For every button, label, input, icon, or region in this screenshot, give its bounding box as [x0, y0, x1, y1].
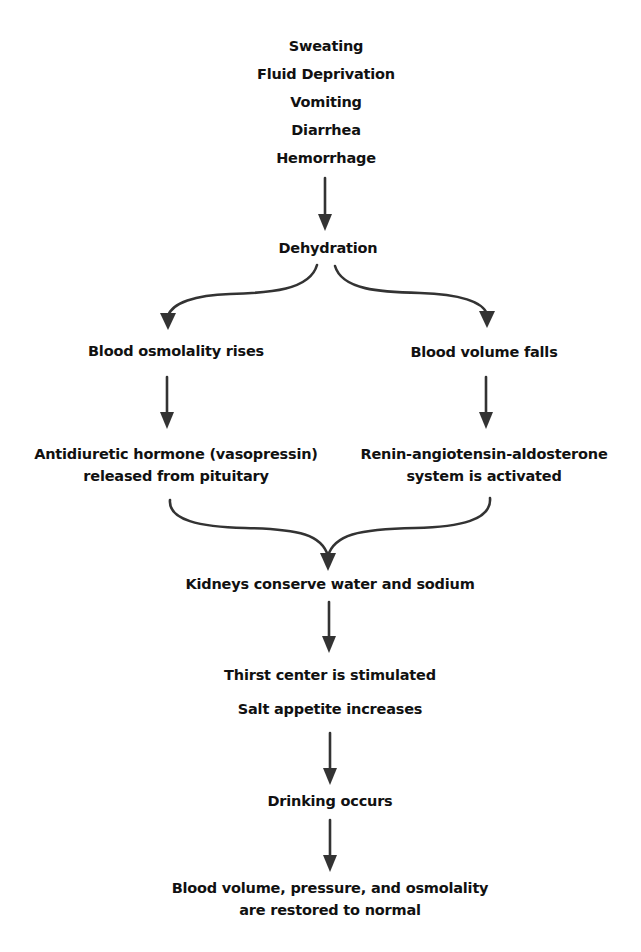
arrow-dehydration-to-blood-volume — [335, 266, 495, 328]
arrow-salt-to-drinking — [323, 733, 337, 785]
cause-fluid-deprivation: Fluid Deprivation — [257, 63, 395, 85]
arrow-osmolality-to-adh — [160, 377, 174, 429]
node-drinking-occurs: Drinking occurs — [267, 790, 392, 812]
cause-sweating: Sweating — [289, 35, 363, 57]
arrow-kidneys-to-thirst — [322, 602, 336, 653]
arrow-causes-to-dehydration — [318, 178, 332, 231]
node-blood-osmolality-rises: Blood osmolality rises — [88, 340, 264, 362]
arrow-drinking-to-outcome — [323, 820, 337, 872]
node-kidneys-conserve: Kidneys conserve water and sodium — [185, 573, 474, 595]
adh-line-2: released from pituitary — [34, 465, 318, 487]
outcome-line-2: are restored to normal — [172, 899, 489, 921]
node-outcome-restored: Blood volume, pressure, and osmolality a… — [172, 877, 489, 921]
cause-vomiting: Vomiting — [290, 91, 361, 113]
node-blood-volume-falls: Blood volume falls — [410, 341, 557, 363]
raas-line-2: system is activated — [360, 465, 607, 487]
arrow-blood-volume-to-raas — [479, 377, 493, 429]
cause-hemorrhage: Hemorrhage — [276, 147, 376, 169]
arrow-converge-to-kidneys — [170, 498, 490, 571]
node-raas-activated: Renin-angiotensin-aldosterone system is … — [360, 443, 607, 487]
outcome-line-1: Blood volume, pressure, and osmolality — [172, 877, 489, 899]
node-thirst-center: Thirst center is stimulated — [224, 664, 436, 686]
cause-diarrhea: Diarrhea — [291, 119, 360, 141]
node-salt-appetite: Salt appetite increases — [238, 698, 422, 720]
adh-line-1: Antidiuretic hormone (vasopressin) — [34, 443, 318, 465]
raas-line-1: Renin-angiotensin-aldosterone — [360, 443, 607, 465]
node-adh-released: Antidiuretic hormone (vasopressin) relea… — [34, 443, 318, 487]
node-dehydration: Dehydration — [279, 237, 378, 259]
arrow-dehydration-to-osmolality — [160, 265, 317, 330]
